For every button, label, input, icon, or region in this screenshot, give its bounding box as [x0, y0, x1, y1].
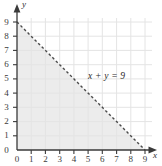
x-tick-label: 1: [26, 155, 37, 164]
x-tick-label: 8: [125, 155, 136, 164]
x-axis-label: x: [153, 150, 157, 160]
x-tick-label: 5: [83, 155, 94, 164]
x-tick-label: 0: [12, 155, 23, 164]
y-axis-label: y: [22, 0, 26, 9]
plot-area: [0, 0, 162, 166]
x-tick-label: 3: [54, 155, 65, 164]
y-tick-label: 1: [1, 131, 12, 140]
y-tick-label: 0: [1, 146, 12, 155]
x-tick-label: 2: [40, 155, 51, 164]
x-tick-label: 7: [111, 155, 122, 164]
x-tick-label: 9: [140, 155, 151, 164]
equation-annotation: x + y = 9: [88, 71, 125, 81]
y-tick-label: 6: [1, 60, 12, 69]
y-tick-label: 4: [1, 89, 12, 98]
y-tick-label: 8: [1, 32, 12, 41]
y-tick-label: 3: [1, 103, 12, 112]
y-tick-label: 9: [1, 18, 12, 27]
inequality-graph: y x x + y = 9 0 1 2 3 4 5 6 7 8 9 0 1 2 …: [0, 0, 162, 166]
y-tick-label: 7: [1, 46, 12, 55]
y-axis-arrow-icon: [14, 4, 21, 13]
x-tick-label: 4: [68, 155, 79, 164]
x-tick-label: 6: [97, 155, 108, 164]
y-tick-label: 2: [1, 117, 12, 126]
y-tick-label: 5: [1, 74, 12, 83]
